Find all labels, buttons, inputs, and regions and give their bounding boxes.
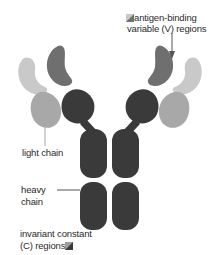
antigen-binding-label: antigen-bindingvariable (V) regions <box>126 12 206 34</box>
variable-region-swatch-icon <box>126 14 134 22</box>
heavy-chain-label-line1: heavy <box>21 184 46 195</box>
light-chain-variable-right-domain <box>173 57 202 94</box>
light-chain-constant-left-domain <box>31 92 61 128</box>
constant-regions-label-line1: invariant constant <box>20 228 92 239</box>
heavy-chain-label-line2: chain <box>21 196 46 208</box>
heavy-chain-constant-ch3-right-domain <box>112 182 139 230</box>
light-chain-constant-right-domain <box>159 92 189 128</box>
heavy-chain-label: heavychain <box>21 184 46 207</box>
constant-regions-label-line2-wrap: (C) regions <box>20 240 92 252</box>
constant-regions-label: invariant constant(C) regions <box>20 228 92 251</box>
heavy-chain-constant-ch1-left-domain <box>61 89 94 123</box>
constant-regions-label-line2: (C) regions <box>20 240 65 251</box>
antibody-structure-illustration <box>0 0 220 255</box>
constant-region-swatch-icon <box>65 242 73 250</box>
heavy-chain-constant-ch3-left-domain <box>80 182 107 230</box>
light-chain-label: light chain <box>22 147 63 158</box>
light-chain-label-text: light chain <box>22 147 63 158</box>
heavy-chain-constant-ch2-left-domain <box>80 129 107 178</box>
antigen-binding-label-line2: variable (V) regions <box>127 23 206 34</box>
antigen-binding-label-line1: antigen-binding <box>134 12 197 23</box>
light-chain-variable-left-domain <box>18 57 47 94</box>
heavy-chain-variable-left-domain <box>47 45 72 86</box>
antibody-diagram-figure: antigen-bindingvariable (V) regions ligh… <box>0 0 220 255</box>
heavy-chain-constant-ch2-right-domain <box>112 129 139 178</box>
heavy-chain-constant-ch1-right-domain <box>126 89 159 123</box>
